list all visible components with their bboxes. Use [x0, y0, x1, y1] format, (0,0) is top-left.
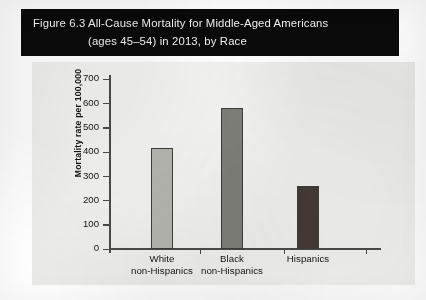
y-axis-line	[109, 75, 111, 253]
chart-panel: Mortality rate per 100,000 700 600 500 4…	[32, 62, 415, 285]
figure-title-line-1: All-Cause Mortality for Middle-Aged Amer…	[88, 17, 328, 29]
y-tick-300	[103, 176, 109, 177]
y-tick-500	[103, 127, 109, 128]
x-category-label-1-line2: non-Hispanics	[184, 265, 280, 277]
bar-white-non-hispanics	[151, 148, 173, 249]
y-tick-label-400: 400	[63, 146, 99, 156]
x-category-label-2: Hispanics	[260, 253, 356, 265]
y-tick-200	[103, 200, 109, 201]
y-tick-label-300: 300	[63, 171, 99, 181]
y-tick-400	[103, 152, 109, 153]
y-tick-label-500: 500	[63, 122, 99, 132]
figure-title-line-2: (ages 45–54) in 2013, by Race	[88, 35, 247, 47]
y-tick-600	[103, 103, 109, 104]
x-tick-3	[366, 248, 367, 254]
y-tick-100	[103, 224, 109, 225]
x-axis-line	[109, 248, 381, 250]
plot-area: Mortality rate per 100,000 700 600 500 4…	[32, 62, 415, 285]
y-tick-label-700: 700	[63, 73, 99, 83]
bar-hispanics	[297, 186, 319, 249]
figure-title-banner: Figure 6.3 All-Cause Mortality for Middl…	[21, 9, 399, 56]
x-category-label-2-line1: Hispanics	[260, 253, 356, 265]
bar-black-non-hispanics	[221, 108, 243, 249]
y-tick-label-100: 100	[63, 219, 99, 229]
y-tick-0	[103, 249, 109, 250]
y-tick-label-0: 0	[63, 243, 99, 253]
figure-number: Figure 6.3	[33, 17, 85, 29]
y-tick-700	[103, 79, 109, 80]
figure-page: Figure 6.3 All-Cause Mortality for Middl…	[0, 0, 426, 300]
y-tick-label-600: 600	[63, 98, 99, 108]
y-tick-label-200: 200	[63, 195, 99, 205]
